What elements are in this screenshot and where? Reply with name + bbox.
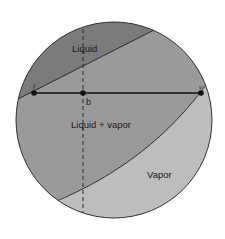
- point-b-label: b: [86, 97, 91, 107]
- point-l-label: l: [33, 82, 35, 91]
- liquid-label: Liquid: [72, 43, 97, 54]
- vapor-label: Vapor: [147, 169, 172, 180]
- point-b: [80, 90, 86, 96]
- phase-diagram: l b v Liquid Liquid + vapor Vapor: [0, 0, 225, 239]
- liquid-vapor-label: Liquid + vapor: [71, 119, 131, 130]
- point-v: [198, 90, 204, 96]
- point-l: [31, 90, 37, 96]
